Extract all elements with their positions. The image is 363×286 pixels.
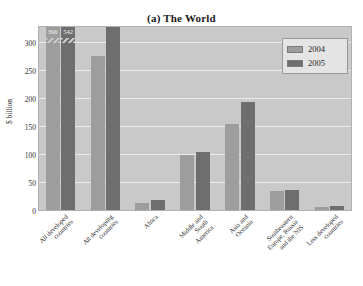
y-tick-label: 50 — [10, 178, 36, 187]
legend-label-2005: 2005 — [308, 58, 325, 68]
bar-2004-5 — [270, 191, 284, 211]
bar-value-label: 396 — [46, 28, 60, 35]
gridline — [38, 126, 352, 127]
y-tick-label: 150 — [10, 122, 36, 131]
y-tick-label: 250 — [10, 66, 36, 75]
chart-figure: (a) The World 396542 050100150200250300 … — [0, 0, 363, 286]
bar-value-label: 542 — [61, 28, 75, 35]
legend-label-2004: 2004 — [308, 44, 325, 54]
bar-2005-0: 542 — [61, 26, 75, 211]
y-tick-label: 0 — [10, 207, 36, 216]
bar-2005-5 — [285, 190, 299, 211]
bar-2005-1 — [106, 26, 120, 211]
bar-2004-2 — [135, 203, 149, 211]
y-tick-label: 300 — [10, 38, 36, 47]
bar-2004-1 — [91, 56, 105, 211]
legend-swatch-2004-icon — [287, 46, 303, 53]
legend-swatch-2005-icon — [287, 60, 303, 67]
legend-entry-2005: 2005 — [287, 56, 343, 70]
bar-2004-3 — [180, 155, 194, 211]
y-tick-label: 200 — [10, 94, 36, 103]
legend-entry-2004: 2004 — [287, 42, 343, 56]
chart-legend: 2004 2005 — [282, 38, 348, 74]
bar-2004-0: 396 — [46, 26, 60, 211]
bar-2005-2 — [151, 200, 165, 211]
chart-title: (a) The World — [0, 12, 363, 24]
y-tick-label: 100 — [10, 150, 36, 159]
axis-break-marker — [61, 38, 75, 43]
bar-2005-4 — [241, 102, 255, 211]
bar-2005-3 — [196, 152, 210, 211]
axis-break-marker — [46, 38, 60, 43]
bar-2004-4 — [225, 124, 239, 211]
gridline — [38, 98, 352, 99]
x-axis-labels: All developed countriesAll developing co… — [38, 211, 352, 286]
y-axis-label: $ billion — [5, 82, 14, 142]
